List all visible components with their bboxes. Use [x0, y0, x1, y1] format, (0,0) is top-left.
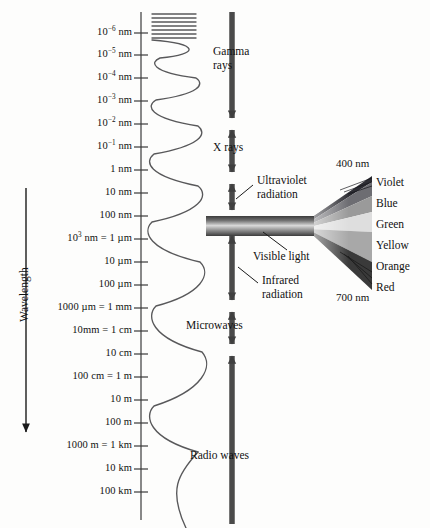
wavelength-scale-axis	[134, 12, 148, 520]
band-label-line: Microwaves	[186, 319, 243, 333]
tick-label: 10 nm	[105, 187, 132, 198]
band-label-line: X rays	[213, 141, 243, 155]
tick-label: 10−6 nm	[97, 27, 132, 38]
color-label-blue: Blue	[376, 198, 398, 210]
tick-label: 10 m	[110, 394, 132, 405]
band-label-infrared-radiation: Infrared radiation	[262, 274, 303, 301]
tick-label: 100 km	[100, 486, 132, 497]
tick-label: 1000 µm = 1 mm	[57, 302, 132, 313]
tick-label: 10−3 nm	[97, 95, 132, 106]
color-label-orange: Orange	[376, 261, 410, 273]
tick-label: 1 nm	[110, 164, 132, 175]
band-label-line: Visible light	[253, 250, 310, 264]
band-label-line: Radio waves	[190, 449, 249, 463]
tick-label: 10−5 nm	[97, 49, 132, 60]
tick-label: 10−2 nm	[97, 118, 132, 129]
wavelength-axis-title: Wavelength	[18, 267, 30, 322]
band-label-ultraviolet-radiation: Ultraviolet radiation	[257, 174, 307, 201]
band-label-line: radiation	[262, 288, 303, 302]
tick-label: 10 µm	[104, 256, 132, 267]
band-label-line: radiation	[257, 188, 307, 202]
visible-light-dispersion-fan	[314, 176, 372, 290]
tick-label: 10 km	[105, 463, 132, 474]
tick-label: 1000 m = 1 km	[66, 440, 132, 451]
band-label-microwaves: Microwaves	[186, 319, 243, 333]
tick-label: 10−1 nm	[97, 141, 132, 152]
color-label-red: Red	[376, 282, 395, 294]
band-label-x-rays: X rays	[213, 141, 243, 155]
color-label-violet: Violet	[376, 177, 404, 189]
tick-label: 103 nm = 1 µm	[67, 233, 132, 244]
band-label-visible-light: Visible light	[253, 250, 310, 264]
band-label-line: Ultraviolet	[257, 174, 307, 188]
tick-label: 10mm = 1 cm	[72, 325, 132, 336]
band-label-line: Infrared	[262, 274, 303, 288]
band-label-line: Gamma	[213, 45, 249, 59]
visible-light-band	[206, 216, 314, 236]
tick-label: 10 cm	[106, 348, 132, 359]
band-label-line: rays	[213, 59, 249, 73]
visible-fan-400nm-label: 400 nm	[336, 158, 369, 169]
band-label-radio-waves: Radio waves	[190, 449, 249, 463]
visible-fan-700nm-label: 700 nm	[336, 292, 369, 303]
electromagnetic-spectrum-diagram: Wavelength 10−6 nm 10−5 nm 10−4 nm 10−3 …	[0, 0, 430, 528]
tick-label: 100 µm	[99, 279, 132, 290]
tick-label: 100 m	[105, 417, 132, 428]
tick-label: 10−4 nm	[97, 72, 132, 83]
tick-label: 100 cm = 1 m	[72, 371, 132, 382]
band-label-gamma-rays: Gamma rays	[213, 45, 249, 72]
color-label-green: Green	[376, 219, 404, 231]
color-label-yellow: Yellow	[376, 240, 409, 252]
tick-label: 100 nm	[100, 210, 132, 221]
